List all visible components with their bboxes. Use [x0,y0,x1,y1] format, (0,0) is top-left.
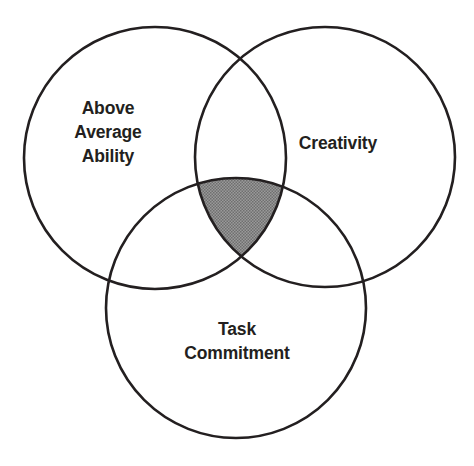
label-creativity: Creativity [299,132,377,156]
label-task-commitment: Task Commitment [184,318,289,366]
intersection-clip-inner [0,0,474,466]
intersection-clip-middle [0,0,474,466]
label-above-average-ability: Above Average Ability [74,97,141,168]
venn-diagram-canvas [0,0,474,466]
venn-diagram: Above Average Ability Creativity Task Co… [0,0,474,466]
triple-intersection-shading [0,0,474,466]
intersection-clip-outer [0,0,474,466]
